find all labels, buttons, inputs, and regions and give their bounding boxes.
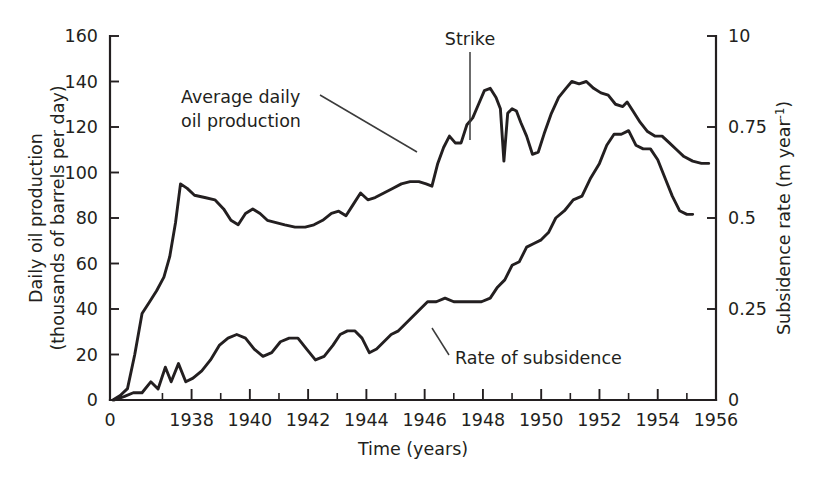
x-tick-label-10: 1956 [694, 410, 739, 430]
x-tick-label-1: 1938 [169, 410, 214, 430]
left-axis-ticks [110, 36, 119, 400]
y2-axis-title: Subsidence rate (m year-1) [773, 101, 794, 335]
left-tick-label-1: 20 [76, 345, 98, 365]
left-tick-label-8: 160 [65, 26, 98, 46]
oil-production-subsidence-chart: 020406080100120140160 00.250.50.7510 019… [0, 0, 813, 477]
left-tick-label-3: 60 [76, 254, 98, 274]
x-tick-label-2: 1940 [228, 410, 273, 430]
y-axis-title-line2: (thousands of barrels per day) [48, 85, 68, 350]
left-tick-label-4: 80 [76, 208, 98, 228]
right-tick-label-0: 0 [728, 390, 739, 410]
oil-production-leader-line [320, 95, 417, 152]
right-tick-label-3: 0.75 [728, 117, 767, 137]
x-tick-label-7: 1950 [519, 410, 564, 430]
strike-annotation: Strike [445, 29, 495, 49]
x-tick-label-8: 1952 [577, 410, 622, 430]
left-tick-label-6: 120 [65, 117, 98, 137]
x-tick-label-9: 1954 [635, 410, 680, 430]
x-tick-label-5: 1946 [402, 410, 447, 430]
oil-production-annotation-line1: Average daily [181, 87, 300, 107]
left-axis-tick-labels: 020406080100120140160 [65, 26, 98, 410]
x-tick-label-4: 1944 [344, 410, 389, 430]
left-tick-label-0: 0 [87, 390, 98, 410]
right-tick-label-1: 0.25 [728, 299, 767, 319]
y-axis-title-line1: Daily oil production [26, 133, 46, 303]
x-tick-label-6: 1948 [461, 410, 506, 430]
left-tick-label-2: 40 [76, 299, 98, 319]
right-axis-ticks [707, 36, 716, 309]
x-axis-title: Time (years) [357, 439, 468, 459]
x-axis-tick-labels: 0193819401942194419461948195019521954195… [104, 410, 738, 430]
x-tick-label-3: 1942 [286, 410, 331, 430]
subsidence-leader-line [432, 328, 449, 355]
right-tick-label-4: 10 [728, 26, 750, 46]
right-axis-tick-labels: 00.250.50.7510 [728, 26, 767, 410]
oil-production-annotation-line2: oil production [181, 111, 301, 131]
chart-figure: 020406080100120140160 00.250.50.7510 019… [0, 0, 813, 477]
subsidence-annotation: Rate of subsidence [455, 348, 622, 368]
x-tick-label-0: 0 [104, 410, 115, 430]
left-tick-label-7: 140 [65, 72, 98, 92]
right-tick-label-2: 0.5 [728, 208, 756, 228]
left-tick-label-5: 100 [65, 163, 98, 183]
